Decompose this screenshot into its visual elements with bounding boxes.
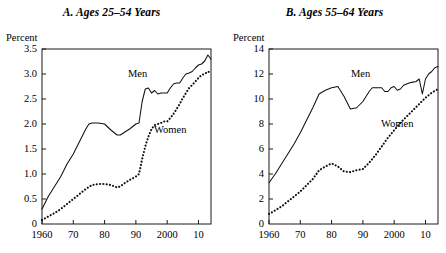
series-line-women: [269, 89, 438, 214]
x-axis-tick-label: 10: [405, 230, 445, 240]
plot-frame: [42, 49, 211, 224]
y-axis-tick-label: 2: [223, 194, 264, 204]
y-axis-tick-label: 3.5: [0, 44, 37, 54]
series-label-women: Women: [381, 118, 413, 129]
y-axis-tick-label: 12: [223, 69, 264, 79]
y-axis-tick-label: 1.0: [0, 169, 37, 179]
series-label-men: Men: [351, 68, 370, 79]
y-axis-tick-label: 4: [223, 169, 264, 179]
chart-panel-a: A. Ages 25–54 Years Percent 00.51.01.52.…: [0, 0, 223, 253]
y-axis-tick-label: 2.5: [0, 94, 37, 104]
y-axis-tick-label: 14: [223, 44, 264, 54]
figure-container: A. Ages 25–54 Years Percent 00.51.01.52.…: [0, 0, 446, 253]
series-label-women: Women: [154, 124, 186, 135]
y-axis-tick-label: 1.5: [0, 144, 37, 154]
y-axis-tick-label: 3.0: [0, 69, 37, 79]
y-axis-tick-label: 6: [223, 144, 264, 154]
chart-panel-b: B. Ages 55–64 Years Percent 024681012141…: [223, 0, 446, 253]
y-axis-tick-label: 10: [223, 94, 264, 104]
x-axis-tick-label: 10: [178, 230, 218, 240]
series-line-women: [42, 72, 211, 221]
y-axis-tick-label: 0: [223, 219, 264, 229]
y-axis-tick-label: 0: [0, 219, 37, 229]
y-axis-tick-label: 0.5: [0, 194, 37, 204]
y-axis-tick-label: 8: [223, 119, 264, 129]
series-label-men: Men: [128, 68, 147, 79]
y-axis-tick-label: 2.0: [0, 119, 37, 129]
